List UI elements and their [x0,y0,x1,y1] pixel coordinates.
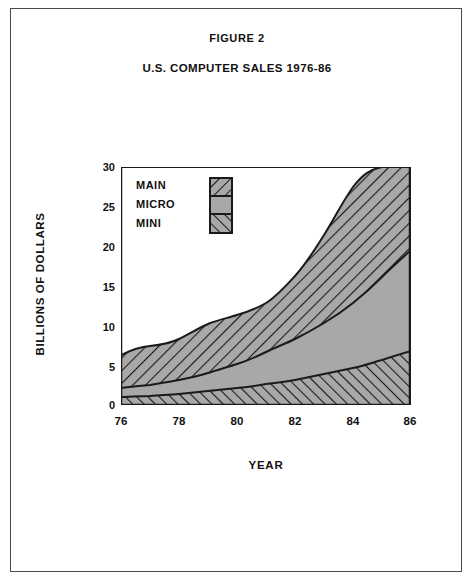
y-tick-5: 5 [89,362,115,373]
y-axis-title-text: BILLIONS OF DOLLARS [33,212,45,355]
x-tick-82: 82 [280,415,310,427]
legend-swatch-main [210,178,232,196]
x-tick-76: 76 [106,415,136,427]
x-tick-80: 80 [222,415,252,427]
y-axis-tick-labels: 30 25 20 15 10 5 0 [79,167,115,405]
y-tick-25: 25 [89,202,115,213]
figure-frame: FIGURE 2 U.S. COMPUTER SALES 1976-86 BIL… [10,8,462,572]
legend-label-main: MAIN [136,179,200,191]
figure-subtitle: U.S. COMPUTER SALES 1976-86 [11,61,463,75]
x-tick-78: 78 [164,415,194,427]
x-tick-84: 84 [338,415,368,427]
legend-label-micro: MICRO [136,198,200,210]
x-axis-tick-labels: 76 78 80 82 84 86 [121,415,411,431]
title-block: FIGURE 2 U.S. COMPUTER SALES 1976-86 [11,31,463,75]
y-tick-15: 15 [89,282,115,293]
x-tick-86: 86 [395,415,425,427]
y-tick-20: 20 [89,242,115,253]
legend-label-mini: MINI [136,217,200,229]
y-axis-title: BILLIONS OF DOLLARS [29,159,49,409]
y-tick-0: 0 [89,400,115,411]
figure-label: FIGURE 2 [11,31,463,45]
x-axis-title: YEAR [121,459,411,471]
legend-swatch-mini [210,214,232,233]
legend-swatch-micro [210,196,232,214]
legend-swatch-stack [209,177,233,234]
y-tick-30: 30 [89,162,115,173]
chart-legend: MAIN MICRO MINI [136,175,246,239]
y-tick-10: 10 [89,322,115,333]
